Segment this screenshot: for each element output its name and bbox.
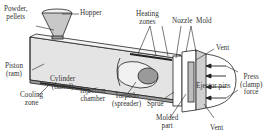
label-powder-pellets: Powder, pellets	[4, 6, 27, 21]
label-heating-zones: Heating zones	[136, 11, 159, 26]
label-piston-ram: Piston (ram)	[5, 63, 23, 78]
label-vent-top: Vent	[216, 45, 229, 53]
label-press-clamp-force: Press (clamp) force	[240, 74, 262, 97]
label-molded-part: Molded part	[156, 115, 178, 130]
label-nozzle: Nozzle	[172, 18, 192, 26]
label-hopper: Hopper	[80, 10, 102, 18]
label-torpedo-spreader: Torpedo (spreader)	[112, 93, 141, 108]
label-injection-chamber: Injection chamber	[80, 88, 106, 103]
label-mold: Mold	[196, 18, 212, 26]
label-sprue: Sprue	[147, 101, 164, 109]
label-cylinder-barrel: Cylinder (barrel)	[50, 76, 75, 91]
label-vent-bottom: Vent	[210, 125, 223, 133]
label-cooling-zone: Cooling zone	[20, 92, 43, 107]
mold	[173, 50, 236, 112]
label-ejector-pins: Ejector pins	[196, 83, 231, 91]
hopper	[42, 9, 72, 39]
